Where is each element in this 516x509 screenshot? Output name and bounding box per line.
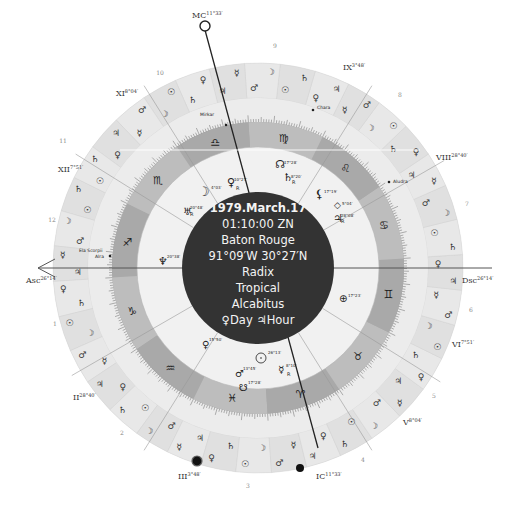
chart-house-system: Alcabitus [183,296,333,312]
svg-text:◇: ◇ [334,200,341,210]
house-number-8: 8 [398,91,402,98]
house-number-6: 6 [469,306,473,313]
ring-glyph: ♂ [363,100,371,110]
sign-glyph: ♉ [353,350,363,363]
ring-glyph: ♄ [389,144,397,154]
ring-glyph: ♃ [196,433,204,443]
ring-glyph: ♀ [320,431,327,441]
cusp-label-ix: IX3°48′ [343,62,366,72]
ring-glyph: ☉ [281,85,289,95]
svg-text:20°38′: 20°38′ [167,254,180,259]
chart-place: Baton Rouge [183,232,333,248]
sign-glyph: ♌ [341,162,351,175]
ring-glyph: ♄ [77,298,85,308]
house-number-5: 5 [432,392,436,399]
ring-glyph: ☽ [64,216,72,226]
house-number-7: 7 [465,200,469,207]
sign-glyph: ♒ [165,362,175,375]
ring-glyph: ♄ [75,184,83,194]
svg-text:⚸: ⚸ [315,187,324,201]
ring-glyph: ☉ [141,403,149,413]
sign-glyph: ♋ [379,219,389,232]
ring-glyph: ☽ [161,109,169,119]
ring-glyph: ☿ [101,356,107,366]
star-aludra: Aludra [393,179,408,184]
svg-text:17°28′: 17°28′ [284,160,297,165]
cusp-label-vi: VI7°51′ [451,339,475,349]
iii-marker-icon [192,456,202,466]
ring-glyph: ♀ [60,284,67,294]
ring-glyph: ☿ [433,290,439,300]
ring-glyph: ♄ [227,441,235,451]
ring-glyph: ☽ [370,421,378,431]
ring-glyph: ♄ [341,439,349,449]
ring-glyph: ♂ [444,310,452,320]
star-chara: Chara [317,105,331,110]
cusp-label-viii: VIII28°40′ [435,152,468,162]
ring-glyph: ♂ [422,198,430,208]
ring-glyph: ☽ [367,123,375,133]
ring-glyph: ☉ [96,176,104,186]
house-number-1: 1 [53,320,57,327]
ring-glyph: ♃ [96,379,104,389]
ring-glyph: ☉ [389,121,397,131]
svg-text:⊕: ⊕ [339,293,347,304]
ring-glyph: ♀ [418,372,425,382]
ic-marker-icon [296,464,304,472]
sign-glyph: ♎ [210,136,220,149]
cusp-label-xi: XI8°04′ [116,88,139,98]
ring-glyph: ♄ [449,242,457,252]
svg-text:☿: ☿ [278,364,284,375]
ring-glyph: ♀ [208,453,215,463]
ring-glyph: ☿ [397,398,403,408]
svg-text:17°23′: 17°23′ [348,293,361,298]
ring-glyph: ♃ [450,276,458,286]
ring-glyph: ☽ [145,426,153,436]
ring-glyph: ♀ [114,150,121,160]
ring-glyph: ♃ [333,84,341,94]
svg-text:8°10′: 8°10′ [286,363,297,368]
ring-glyph: ♀ [313,93,320,103]
sign-glyph: ♑ [127,305,137,318]
svg-text:10°27′: 10°27′ [234,177,247,182]
ring-glyph: ☽ [424,321,432,331]
ic-label: IC11°33′ [316,471,343,481]
house-number-11: 11 [59,137,67,144]
cusp-label-ii: II28°40′ [73,392,97,402]
ring-glyph: ♂ [275,458,283,468]
ring-glyph: ♄ [91,154,99,164]
ring-glyph: ♃ [309,451,317,461]
ring-glyph: ☿ [234,68,240,78]
svg-text:R: R [236,185,240,191]
ring-glyph: ♂ [167,421,175,431]
chart-zodiac: Tropical [183,280,333,296]
ring-glyph: ☽ [86,328,94,338]
house-number-2: 2 [120,429,124,436]
ring-glyph: ☽ [442,208,450,218]
svg-text:R: R [341,218,345,224]
svg-text:4°03′: 4°03′ [211,185,222,190]
chart-coordinates: 91°09′W 30°27′N [183,248,333,264]
sign-glyph: ♏ [153,174,163,187]
ring-glyph: ☿ [290,440,296,450]
chart-date: 1979.March.17 [183,200,333,216]
ring-glyph: ♄ [189,95,197,105]
ring-glyph: ☿ [342,105,348,115]
ring-glyph: ♄ [300,73,308,83]
ring-glyph: ☿ [137,128,143,138]
ring-glyph: ☿ [431,176,437,186]
ring-glyph: ♀ [413,147,420,157]
ring-glyph: ♂ [373,398,381,408]
ring-glyph: ☉ [430,228,438,238]
chart-day-hour: ♀Day ♃Hour [183,312,333,328]
svg-text:17°28′: 17°28′ [248,380,261,385]
ring-glyph: ♄ [412,350,420,360]
sign-glyph: ♓ [227,392,237,405]
ring-glyph: ☉ [167,87,175,97]
house-number-4: 4 [361,456,365,463]
mc-label: MC11°33′ [192,10,224,20]
ring-glyph: ☽ [267,67,275,77]
ring-glyph: ♂ [250,83,258,93]
svg-text:☽: ☽ [198,184,210,199]
ring-glyph: ♂ [78,350,86,360]
